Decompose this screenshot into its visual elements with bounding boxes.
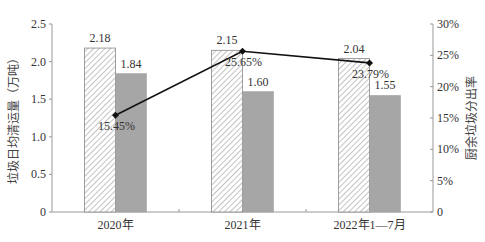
y-tick-label: 1.0 — [31, 130, 46, 144]
y2-tick-label: 10% — [437, 142, 459, 156]
x-tick-label: 2022年1—7月 — [334, 218, 406, 232]
bar-other — [243, 92, 274, 212]
bar-total — [212, 50, 243, 212]
y-tick-label: 0 — [40, 205, 46, 219]
y-tick-label: 0.5 — [31, 167, 46, 181]
y2-tick-label: 20% — [437, 80, 459, 94]
bar-other — [116, 74, 147, 212]
bar-total — [339, 59, 370, 212]
y2-tick-label: 15% — [437, 111, 459, 125]
x-tick-label: 2020年 — [98, 218, 134, 232]
y-tick-label: 1.5 — [31, 92, 46, 106]
bar-label: 2.04 — [344, 42, 365, 56]
y2-tick-label: 25% — [437, 48, 459, 62]
x-tick-label: 2021年 — [225, 218, 261, 232]
bar-other — [370, 95, 401, 212]
y2-tick-label: 30% — [437, 17, 459, 31]
y2-axis-title: 厨余垃圾分出率 — [464, 76, 479, 160]
bar-label: 1.84 — [121, 57, 142, 71]
rate-label: 15.45% — [98, 119, 135, 133]
y2-tick-label: 5% — [437, 174, 453, 188]
bar-label: 2.18 — [90, 31, 111, 45]
chart: 00.51.01.52.02.505%10%15%20%25%30%垃圾日均清运… — [0, 0, 485, 242]
y-axis-title: 垃圾日均清运量（万吨） — [6, 52, 21, 184]
bar-label: 2.15 — [217, 33, 238, 47]
rate-label: 25.65% — [225, 55, 262, 69]
y-tick-label: 2.5 — [31, 17, 46, 31]
y-tick-label: 2.0 — [31, 55, 46, 69]
y2-tick-label: 0 — [437, 205, 443, 219]
bar-label: 1.60 — [248, 75, 269, 89]
rate-label: 23.79% — [352, 67, 389, 81]
